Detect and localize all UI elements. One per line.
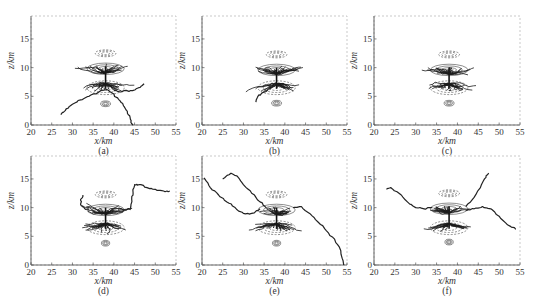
panel-caption: (a) [98,146,109,157]
x-tick-label: 50 [322,267,332,277]
figure: 2025303540455055051015x/kmz/km(a)2025303… [0,0,535,308]
panel-a: 2025303540455055051015x/kmz/km(a) [6,16,181,157]
panel-f: 2025303540455055051015x/kmz/km(f) [349,156,525,297]
x-tick-label: 30 [68,127,78,137]
y-tick-label: 15 [191,174,201,184]
channel-branch-left-peak [223,173,267,207]
x-tick-label: 30 [411,267,421,277]
charge-contour-lower-positive [447,102,451,104]
y-tick-label: 15 [363,34,373,44]
x-axis-label: x/km [437,276,456,286]
channel-branch-left-down [61,89,106,114]
charge-contour-upper-screening [272,193,280,196]
y-tick-label: 5 [196,91,201,101]
x-tick-label: 30 [239,127,249,137]
panel-caption: (c) [442,146,453,157]
x-tick-label: 25 [218,267,228,277]
charge-contour-upper-screening [269,52,284,57]
y-tick-label: 0 [196,120,201,130]
x-axis-label: x/km [94,136,113,146]
x-tick-label: 25 [47,127,57,137]
panel-b: 2025303540455055051015x/kmz/km(b) [177,16,352,157]
y-tick-label: 0 [25,120,30,130]
x-tick-label: 55 [516,267,526,277]
y-tick-label: 10 [191,203,201,213]
panel-c: 2025303540455055051015x/kmz/km(c) [349,16,525,157]
charge-contour-lower-positive [104,242,107,244]
x-tick-label: 50 [151,127,161,137]
y-axis-label: z/km [349,52,359,71]
charge-contour-upper-screening [101,193,109,196]
x-tick-label: 45 [130,267,140,277]
charge-contour-upper-screening [269,192,284,197]
x-tick-label: 55 [172,127,182,137]
panel-d: 2025303540455055051015x/kmz/km(d) [6,156,181,297]
y-axis-label: z/km [349,192,359,211]
x-tick-label: 55 [343,127,353,137]
y-tick-label: 10 [363,63,373,73]
charge-contour-upper-screening [442,52,457,57]
y-tick-label: 10 [20,203,30,213]
y-tick-label: 5 [25,91,30,101]
y-tick-label: 0 [196,260,201,270]
y-tick-label: 5 [368,91,373,101]
y-tick-label: 10 [363,203,373,213]
y-tick-label: 10 [191,63,201,73]
y-tick-label: 15 [191,34,201,44]
y-tick-label: 0 [25,260,30,270]
panel-caption: (b) [269,146,280,157]
x-tick-label: 30 [411,127,421,137]
charge-contour-lower-positive [275,102,279,104]
x-tick-label: 50 [322,127,332,137]
y-tick-label: 10 [20,63,30,73]
x-tick-label: 25 [47,267,57,277]
y-axis-label: z/km [6,52,16,71]
charge-contour-lower-positive [104,103,108,105]
y-axis-label: z/km [177,52,187,71]
channel-branch-right-down [106,89,133,125]
x-tick-label: 30 [239,267,249,277]
charge-contour-upper-screening [445,53,453,56]
charge-contour-lower-positive [447,241,450,243]
x-axis-label: x/km [94,276,113,286]
charge-contour-upper-screening [442,191,457,196]
charge-contour-upper-screening [101,52,109,55]
x-tick-label: 50 [151,267,161,277]
x-tick-label: 50 [495,267,505,277]
y-tick-label: 5 [25,231,30,241]
channel-tree [75,64,134,92]
panel-e: 2025303540455055051015x/kmz/km(e) [177,156,352,297]
panel-caption: (d) [98,286,109,297]
channel-branch-right-down [293,207,344,266]
x-tick-label: 55 [516,127,526,137]
y-tick-label: 5 [196,231,201,241]
channel-branch-left-down [256,89,268,102]
y-axis-label: z/km [6,192,16,211]
y-tick-label: 0 [368,260,373,270]
channel-branch-left [387,188,433,210]
x-tick-label: 45 [474,127,484,137]
charge-contour-upper-screening [272,53,280,56]
panel-caption: (e) [269,286,280,297]
x-tick-label: 55 [172,267,182,277]
x-tick-label: 25 [390,127,400,137]
charge-contour-lower-positive [275,242,278,244]
x-axis-label: x/km [265,276,284,286]
x-axis-label: x/km [437,136,456,146]
panel-caption: (f) [442,286,452,297]
x-tick-label: 45 [301,127,311,137]
charge-contour-upper-screening [98,192,113,197]
y-tick-label: 5 [368,231,373,241]
x-tick-label: 25 [390,267,400,277]
y-tick-label: 15 [363,174,373,184]
channel-branch-right-up [118,184,170,210]
x-tick-label: 30 [68,267,78,277]
charge-contour-upper-screening [98,51,113,56]
channel-tree [246,66,303,92]
x-tick-label: 25 [218,127,228,137]
y-tick-label: 15 [20,174,30,184]
x-tick-label: 45 [130,127,140,137]
plot-frame [31,16,176,125]
x-tick-label: 45 [301,267,311,277]
x-tick-label: 45 [474,267,484,277]
